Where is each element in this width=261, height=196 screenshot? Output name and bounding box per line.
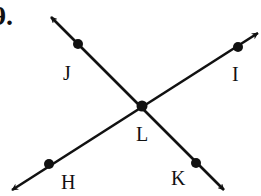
- label-l: L: [136, 124, 148, 144]
- label-k: K: [171, 168, 185, 188]
- intersecting-lines-figure: [0, 0, 261, 196]
- point-j-dot: [73, 39, 83, 49]
- point-l-dot: [137, 101, 148, 112]
- label-i: I: [232, 64, 239, 84]
- label-j: J: [63, 63, 71, 83]
- label-h: H: [61, 172, 75, 192]
- point-h-dot: [44, 159, 54, 169]
- point-k-dot: [191, 158, 201, 168]
- point-i-dot: [233, 42, 243, 52]
- diagram-canvas: 9. J I L H K: [0, 0, 261, 196]
